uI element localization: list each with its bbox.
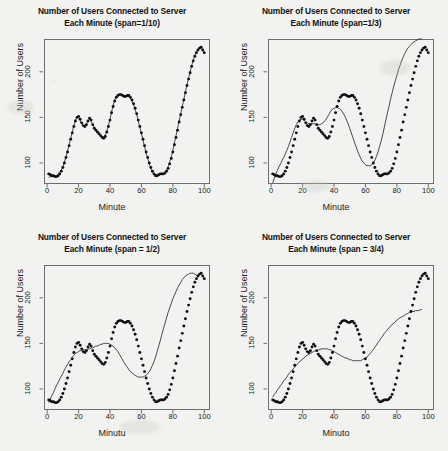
- data-point: [80, 347, 83, 350]
- data-point: [392, 162, 395, 165]
- data-point: [290, 151, 293, 154]
- data-point: [137, 345, 140, 348]
- data-point: [176, 355, 179, 358]
- data-point: [85, 123, 88, 126]
- data-point: [355, 325, 358, 328]
- data-point: [287, 162, 290, 165]
- data-point: [58, 398, 61, 401]
- data-point: [193, 55, 196, 58]
- data-point: [366, 138, 369, 141]
- x-axis-label: Minute: [0, 202, 224, 212]
- data-point: [60, 396, 63, 399]
- data-point: [148, 388, 151, 391]
- data-point: [419, 277, 422, 280]
- data-point: [90, 119, 93, 122]
- data-point: [179, 339, 182, 342]
- data-point: [417, 281, 420, 284]
- data-point: [391, 167, 394, 170]
- data-point: [189, 71, 192, 74]
- data-point: [304, 347, 307, 350]
- data-point: [403, 113, 406, 116]
- data-point: [329, 131, 332, 134]
- data-point: [135, 112, 138, 115]
- data-point: [182, 325, 185, 328]
- data-point: [397, 143, 400, 146]
- data-point: [284, 396, 287, 399]
- data-point: [190, 65, 193, 68]
- x-tick-label: 0: [37, 412, 57, 421]
- data-point: [113, 100, 116, 103]
- data-point: [416, 285, 419, 288]
- data-point: [87, 120, 90, 123]
- x-tick-label: 80: [163, 412, 183, 421]
- data-point: [201, 48, 204, 51]
- x-tick-label: 80: [387, 186, 407, 195]
- data-point: [170, 383, 173, 386]
- data-point: [373, 166, 376, 169]
- x-tick-label: 80: [163, 186, 183, 195]
- data-point: [395, 151, 398, 154]
- data-point: [168, 162, 171, 165]
- x-tick-label: 20: [293, 186, 313, 195]
- data-point: [405, 106, 408, 109]
- data-point: [145, 377, 148, 380]
- data-point: [168, 388, 171, 391]
- data-point: [181, 106, 184, 109]
- data-point: [358, 107, 361, 110]
- data-point: [91, 123, 94, 126]
- data-point: [366, 364, 369, 367]
- data-point: [66, 151, 69, 154]
- data-point: [71, 357, 74, 360]
- data-point: [361, 119, 364, 122]
- data-point: [77, 341, 80, 344]
- data-point: [282, 172, 285, 175]
- data-point-group: [47, 46, 205, 178]
- data-point: [353, 322, 356, 325]
- data-point: [151, 170, 154, 173]
- y-tick-label: 100: [247, 378, 256, 398]
- x-tick-label: 20: [69, 186, 89, 195]
- data-point: [416, 59, 419, 62]
- data-point: [370, 382, 373, 385]
- data-point: [143, 370, 146, 373]
- data-point: [142, 364, 145, 367]
- data-point: [60, 170, 63, 173]
- x-tick-label: 60: [131, 186, 151, 195]
- data-point: [369, 151, 372, 154]
- data-point: [395, 377, 398, 380]
- data-point: [336, 105, 339, 108]
- data-point: [109, 119, 112, 122]
- data-point: [192, 285, 195, 288]
- data-point: [112, 105, 115, 108]
- data-point: [414, 65, 417, 68]
- data-point: [425, 274, 428, 277]
- data-point: [391, 393, 394, 396]
- data-point: [65, 382, 68, 385]
- data-point: [411, 304, 414, 307]
- x-tick-label: 60: [355, 412, 375, 421]
- y-tick-label: 100: [23, 152, 32, 172]
- data-point: [367, 144, 370, 147]
- x-tick-label: 100: [418, 186, 438, 195]
- data-point: [72, 351, 75, 354]
- data-point: [134, 107, 137, 110]
- data-point: [406, 325, 409, 328]
- data-point: [361, 345, 364, 348]
- data-point: [186, 84, 189, 87]
- data-point: [71, 131, 74, 134]
- data-point: [90, 345, 93, 348]
- data-point: [337, 100, 340, 103]
- data-point: [359, 338, 362, 341]
- loess-smoothing-curve: [273, 39, 422, 183]
- data-point: [203, 277, 206, 280]
- data-point: [61, 166, 64, 169]
- data-point: [178, 120, 181, 123]
- data-point: [375, 396, 378, 399]
- data-point: [303, 118, 306, 121]
- x-tick-label: 40: [100, 412, 120, 421]
- data-point: [173, 369, 176, 372]
- plot-panel-1: Number of Users Connected to ServerEach …: [0, 0, 224, 225]
- y-axis-label: Number of Users: [15, 243, 25, 363]
- data-point: [87, 346, 90, 349]
- data-point: [417, 55, 420, 58]
